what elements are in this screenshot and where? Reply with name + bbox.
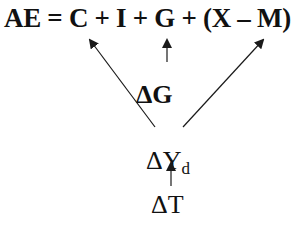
- fiscal-policy-diagram: AE = C + I + G + (X – M) ΔG ΔYd ΔT: [0, 0, 306, 225]
- arrow-yd-to-x-minus-m: [183, 40, 263, 127]
- arrow-yd-to-c: [90, 40, 155, 127]
- arrows-layer: [0, 0, 306, 225]
